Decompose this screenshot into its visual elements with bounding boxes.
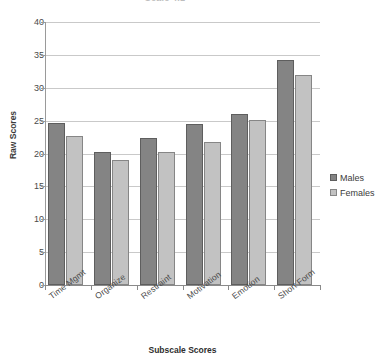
bar-male[interactable] [186, 124, 203, 285]
bar-group [45, 22, 91, 285]
chart-title: Scale 4.1 [0, 0, 330, 1]
legend-label: Males [340, 173, 364, 183]
x-tick-mark [274, 286, 275, 290]
x-tick-mark [228, 286, 229, 290]
bar-male[interactable] [48, 123, 65, 285]
x-tick-mark [137, 286, 138, 290]
y-tick-label: 5 [8, 248, 44, 257]
legend-item[interactable]: Females [330, 185, 390, 200]
bar-female[interactable] [112, 160, 129, 285]
bar-male[interactable] [277, 60, 294, 285]
bar-male[interactable] [140, 138, 157, 285]
x-tick-mark [183, 286, 184, 290]
y-tick-label: 35 [8, 51, 44, 60]
bar-group [274, 22, 320, 285]
plot-area [45, 22, 320, 285]
legend-label: Females [340, 188, 375, 198]
y-tick-label: 10 [8, 215, 44, 224]
y-tick-label: 25 [8, 117, 44, 126]
x-tick-mark [45, 286, 46, 290]
y-axis-line [45, 22, 46, 286]
bar-group [183, 22, 229, 285]
bar-chart: Scale 4.1 Raw Scores 4035302520151050 Su… [0, 0, 391, 363]
legend-swatch-icon [330, 174, 337, 181]
y-axis-ticks: 4035302520151050 [0, 0, 44, 363]
bar-female[interactable] [66, 136, 83, 285]
y-tick-label: 15 [8, 182, 44, 191]
y-tick-label: 30 [8, 84, 44, 93]
bar-male[interactable] [231, 114, 248, 285]
bar-male[interactable] [94, 152, 111, 285]
x-tick-mark [320, 286, 321, 290]
x-axis-title: Subscale Scores [45, 345, 320, 355]
chart-legend: MalesFemales [330, 170, 390, 200]
y-tick-label: 0 [8, 281, 44, 290]
bar-group [91, 22, 137, 285]
bar-female[interactable] [204, 142, 221, 285]
y-tick-label: 20 [8, 150, 44, 159]
bar-group [228, 22, 274, 285]
bar-female[interactable] [295, 75, 312, 285]
legend-swatch-icon [330, 189, 337, 196]
legend-item[interactable]: Males [330, 170, 390, 185]
bar-group [137, 22, 183, 285]
x-tick-mark [91, 286, 92, 290]
y-tick-label: 40 [8, 18, 44, 27]
bar-female[interactable] [158, 152, 175, 285]
bar-female[interactable] [249, 120, 266, 285]
